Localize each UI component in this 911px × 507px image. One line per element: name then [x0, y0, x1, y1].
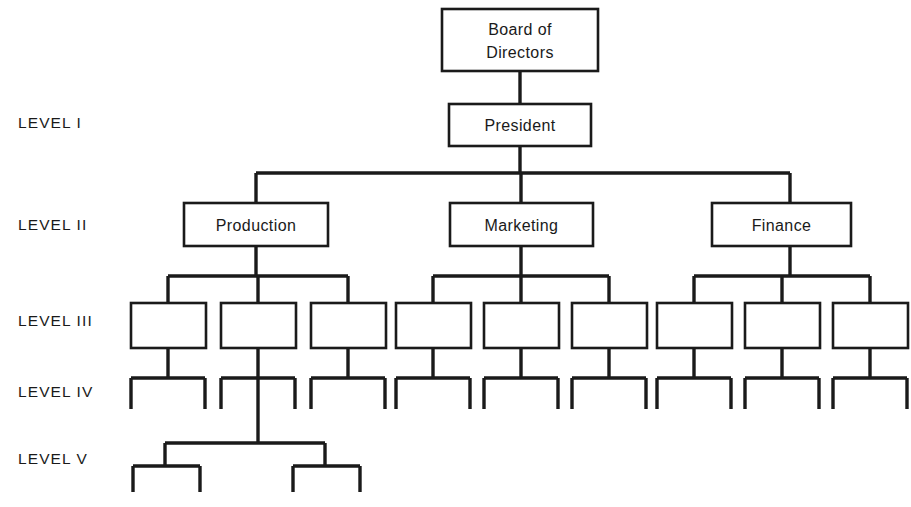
level-label-level-3: LEVEL III: [18, 312, 93, 329]
president-box[interactable]: President: [449, 104, 591, 146]
level-label-level-4: LEVEL IV: [18, 383, 93, 400]
level3-box-production-2[interactable]: [221, 303, 296, 348]
production-box[interactable]: Production: [184, 203, 328, 246]
level-label-level-1: LEVEL I: [18, 114, 82, 131]
marketing-box[interactable]: Marketing: [450, 203, 593, 246]
marketing-box-label-line-1: Marketing: [485, 217, 559, 234]
board-of-directors-box-label-line-2: Directors: [486, 44, 554, 61]
finance-box-label-line-1: Finance: [752, 217, 812, 234]
level3-box-marketing-2[interactable]: [484, 303, 559, 348]
level3-box-finance-2[interactable]: [745, 303, 820, 348]
level3-box-finance-3[interactable]: [833, 303, 908, 348]
level-label-level-2: LEVEL II: [18, 216, 87, 233]
chart-background: [0, 0, 911, 507]
production-box-label-line-1: Production: [216, 217, 297, 234]
org-chart-canvas: LEVEL ILEVEL IILEVEL IIILEVEL IVLEVEL V …: [0, 0, 911, 507]
board-of-directors-box-label-line-1: Board of: [488, 21, 552, 38]
president-box-label-line-1: President: [484, 117, 555, 134]
unlabeled-nodes-group: [131, 303, 908, 348]
level3-box-marketing-1[interactable]: [396, 303, 471, 348]
board-of-directors-box-outline: [442, 9, 598, 71]
org-chart-diagram: LEVEL ILEVEL IILEVEL IIILEVEL IVLEVEL V …: [0, 0, 911, 507]
finance-box[interactable]: Finance: [712, 203, 851, 246]
level3-box-marketing-3[interactable]: [572, 303, 647, 348]
level3-box-production-3[interactable]: [311, 303, 386, 348]
level3-box-production-1[interactable]: [131, 303, 206, 348]
level3-box-finance-1[interactable]: [657, 303, 732, 348]
board-of-directors-box[interactable]: Board ofDirectors: [442, 9, 598, 71]
level-label-level-5: LEVEL V: [18, 450, 88, 467]
